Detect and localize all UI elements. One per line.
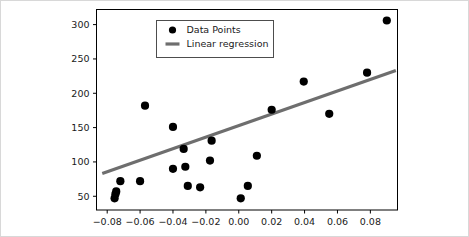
x-tick-label: 0.02 — [261, 216, 282, 227]
x-tick-label: 0.04 — [294, 216, 315, 227]
y-tick-label: 300 — [71, 19, 89, 30]
data-point-marker — [325, 110, 333, 118]
x-tick-label: −0.04 — [158, 216, 187, 227]
x-tick-label: −0.02 — [191, 216, 220, 227]
y-tick-label: 250 — [71, 53, 89, 64]
x-tick-label: 0.06 — [327, 216, 348, 227]
scatter-plot: −0.08−0.06−0.04−0.020.000.020.040.060.08… — [1, 1, 469, 237]
y-tick-label: 150 — [71, 122, 89, 133]
x-axis-ticks: −0.08−0.06−0.04−0.020.000.020.040.060.08 — [93, 210, 381, 227]
data-point-marker — [268, 106, 276, 114]
data-point-marker — [300, 77, 308, 85]
data-point-marker — [237, 194, 245, 202]
data-point-marker — [169, 165, 177, 173]
data-point-marker — [383, 16, 391, 24]
legend-circle-marker-icon — [169, 26, 176, 33]
x-tick-label: −0.08 — [93, 216, 122, 227]
y-tick-label: 200 — [71, 88, 89, 99]
y-axis-ticks: 50100150200250300 — [71, 19, 96, 202]
data-point-marker — [184, 182, 192, 190]
data-point-marker — [116, 177, 124, 185]
y-tick-label: 100 — [71, 156, 89, 167]
legend-entry-label: Data Points — [187, 24, 241, 35]
data-point-marker — [208, 137, 216, 145]
data-point-marker — [181, 163, 189, 171]
y-tick-label: 50 — [77, 191, 89, 202]
x-tick-label: 0.08 — [360, 216, 381, 227]
data-point-marker — [196, 183, 204, 191]
linear-regression-line — [102, 71, 396, 174]
regression-line-path — [102, 71, 396, 174]
data-point-marker — [206, 156, 214, 164]
data-point-marker — [169, 123, 177, 131]
data-point-marker — [141, 102, 149, 110]
legend: Data PointsLinear regression — [157, 21, 274, 58]
data-point-marker — [111, 190, 119, 198]
figure-container: −0.08−0.06−0.04−0.020.000.020.040.060.08… — [0, 0, 469, 237]
data-point-marker — [253, 152, 261, 160]
data-point-marker — [136, 177, 144, 185]
data-point-marker — [244, 182, 252, 190]
x-tick-label: 0.00 — [228, 216, 249, 227]
data-point-marker — [180, 145, 188, 153]
legend-entry-label: Linear regression — [187, 38, 269, 49]
data-point-marker — [363, 69, 371, 77]
x-tick-label: −0.06 — [126, 216, 155, 227]
